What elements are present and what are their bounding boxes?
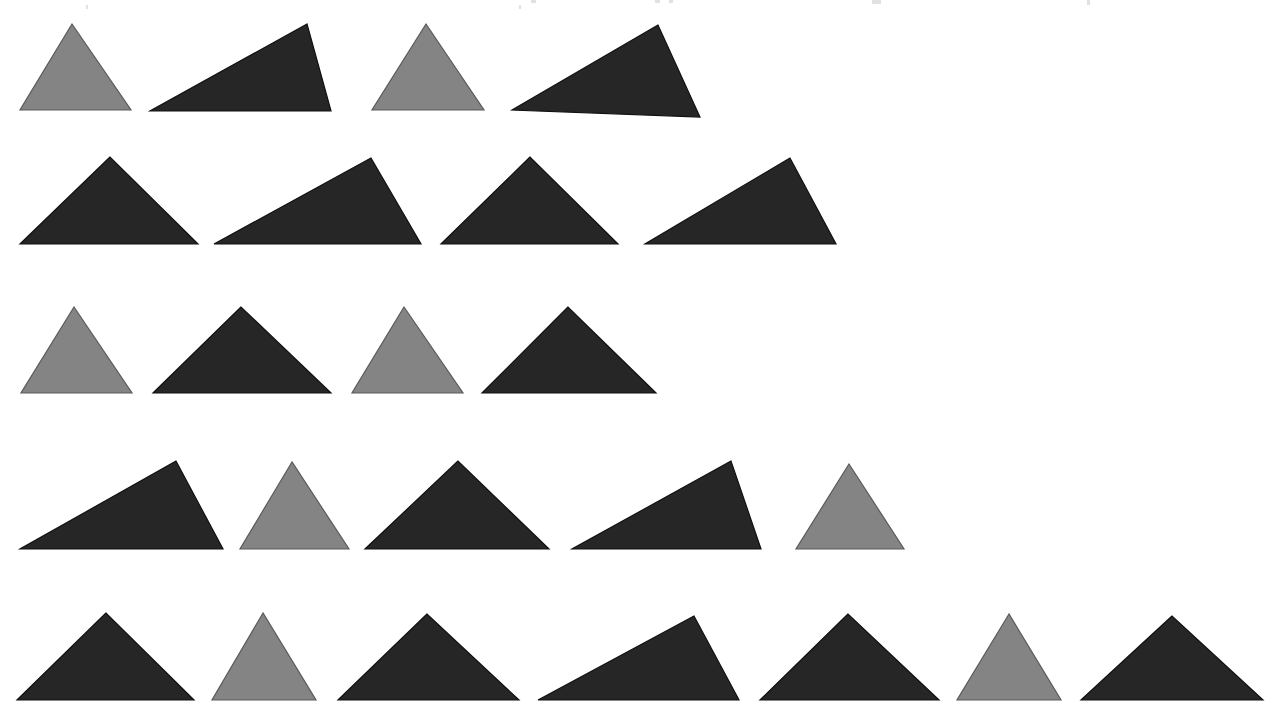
triangle-figure-svg: [0, 0, 1276, 720]
triangle-figure-canvas: [0, 0, 1276, 720]
